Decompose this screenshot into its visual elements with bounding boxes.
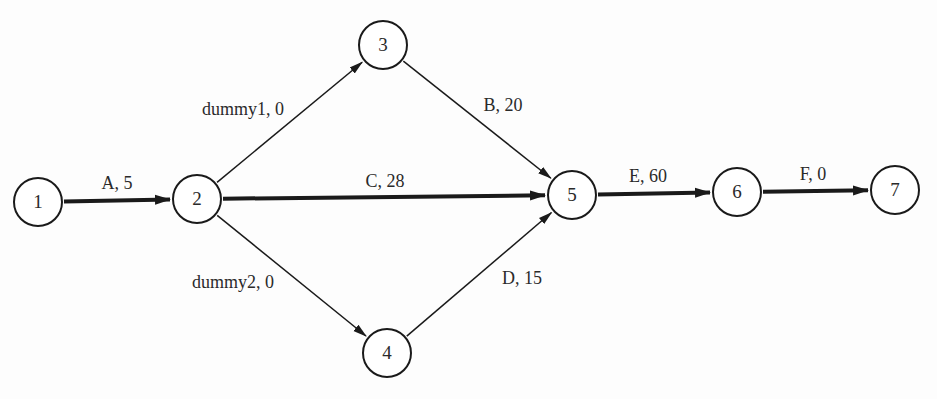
edge-a: [64, 200, 170, 202]
edge-b: [403, 61, 550, 178]
edges-layer: [0, 0, 937, 399]
node-1-label: 1: [33, 191, 43, 213]
edge-label-b: B, 20: [483, 95, 522, 116]
edge-label-d: D, 15: [502, 268, 542, 289]
node-2: 2: [172, 174, 222, 224]
edge-e: [598, 192, 710, 194]
edge-label-c: C, 28: [365, 171, 404, 192]
node-4: 4: [362, 328, 412, 378]
node-7: 7: [870, 165, 920, 215]
node-4-label: 4: [382, 342, 392, 364]
node-7-label: 7: [890, 179, 900, 201]
edge-label-e: E, 60: [629, 166, 667, 187]
edge-f: [763, 190, 868, 191]
edge-label-f: F, 0: [800, 164, 827, 185]
edge-label-a: A, 5: [102, 173, 133, 194]
network-diagram: 1 2 3 4 5 6 7 A, 5 dummy1, 0 C, 28 dummy…: [0, 0, 937, 399]
edge-c: [223, 195, 545, 198]
node-1: 1: [13, 177, 63, 227]
node-3-label: 3: [378, 34, 388, 56]
edge-dummy1: [217, 62, 362, 182]
node-6: 6: [712, 167, 762, 217]
node-2-label: 2: [192, 188, 202, 210]
edge-label-dummy1: dummy1, 0: [202, 99, 284, 120]
node-5-label: 5: [567, 184, 577, 206]
node-5: 5: [547, 170, 597, 220]
node-3: 3: [358, 20, 408, 70]
edge-label-dummy2: dummy2, 0: [192, 272, 274, 293]
node-6-label: 6: [732, 181, 742, 203]
